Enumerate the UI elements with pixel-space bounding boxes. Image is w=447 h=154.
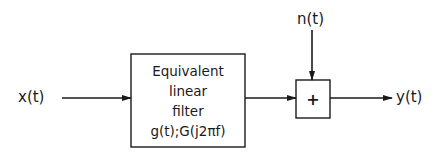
filter-label: Equivalent linear filter g(t);G(j2πf) <box>131 54 245 147</box>
filter-line-1: Equivalent <box>152 61 224 81</box>
filter-line-4: g(t);G(j2πf) <box>150 121 225 141</box>
output-label: y(t) <box>396 90 422 105</box>
block-diagram: x(t) Equivalent linear filter g(t);G(j2π… <box>0 0 447 154</box>
filter-line-2: linear <box>169 81 207 101</box>
input-label: x(t) <box>18 90 44 105</box>
noise-label: n(t) <box>297 12 324 27</box>
filter-line-3: filter <box>172 101 203 121</box>
summer-symbol: + <box>296 80 330 118</box>
